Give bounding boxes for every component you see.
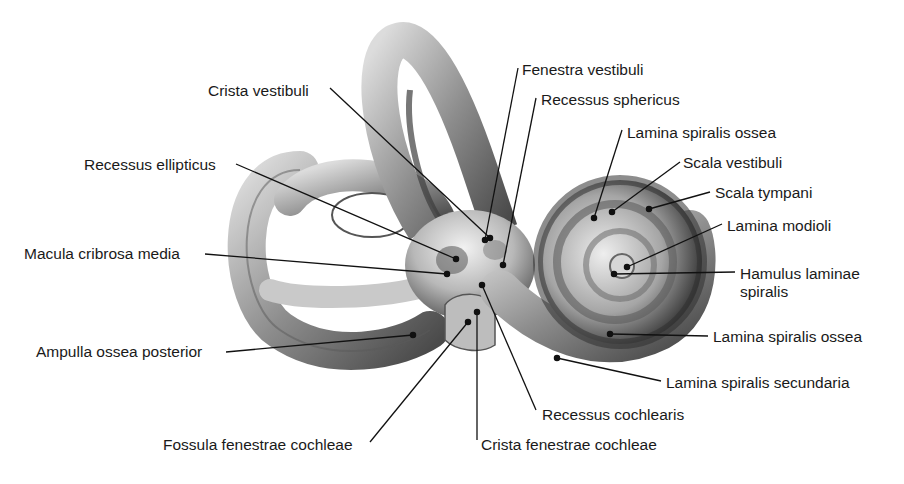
leader-dot-crista-fenestrae-cochleae	[474, 309, 479, 314]
leader-dot-lamina-spiralis-ossea-top	[591, 215, 596, 220]
label-ampulla-ossea-posterior: Ampulla ossea posterior	[36, 343, 202, 361]
leader-dot-scala-vestibuli	[609, 209, 614, 214]
leader-dot-fossula-fenestrae-cochleae	[465, 319, 470, 324]
leader-dot-lamina-spiralis-secundaria	[554, 355, 559, 360]
leader-dot-recessus-cochlearis	[479, 282, 484, 287]
leader-dot-hamulus-laminae-spiralis	[611, 271, 616, 276]
label-lamina-spiralis-secundaria: Lamina spiralis secundaria	[666, 374, 850, 392]
label-lamina-spiralis-ossea-bottom: Lamina spiralis ossea	[713, 328, 862, 346]
label-recessus-sphericus: Recessus sphericus	[541, 91, 680, 109]
labyrinth-figure: Crista vestibuliFenestra vestibuliRecess…	[0, 0, 904, 484]
label-fossula-fenestrae-cochleae: Fossula fenestrae cochleae	[163, 436, 353, 454]
label-fenestra-vestibuli: Fenestra vestibuli	[522, 61, 643, 79]
label-crista-vestibuli: Crista vestibuli	[208, 82, 309, 100]
label-recessus-ellipticus: Recessus ellipticus	[84, 156, 216, 174]
label-lamina-spiralis-ossea-top: Lamina spiralis ossea	[627, 124, 776, 142]
bony-labyrinth-illustration	[0, 0, 904, 484]
leader-dot-ampulla-ossea-posterior	[410, 332, 415, 337]
leader-dot-macula-cribrosa-media	[444, 271, 449, 276]
label-crista-fenestrae-cochleae: Crista fenestrae cochleae	[481, 436, 657, 454]
label-macula-cribrosa-media: Macula cribrosa media	[24, 245, 180, 263]
label-lamina-modioli: Lamina modioli	[727, 217, 831, 235]
label-scala-vestibuli: Scala vestibuli	[683, 154, 782, 172]
label-scala-tympani: Scala tympani	[715, 184, 812, 202]
leader-dot-lamina-spiralis-ossea-bottom	[607, 331, 612, 336]
leader-dot-lamina-modioli	[624, 264, 629, 269]
leader-dot-fenestra-vestibuli	[482, 237, 487, 242]
label-recessus-cochlearis: Recessus cochlearis	[542, 406, 684, 424]
leader-dot-recessus-sphericus	[500, 262, 505, 267]
leader-dot-recessus-ellipticus	[453, 256, 458, 261]
leader-dot-scala-tympani	[646, 206, 651, 211]
label-hamulus-laminae-spiralis: Hamulus laminae spiralis	[740, 265, 860, 301]
